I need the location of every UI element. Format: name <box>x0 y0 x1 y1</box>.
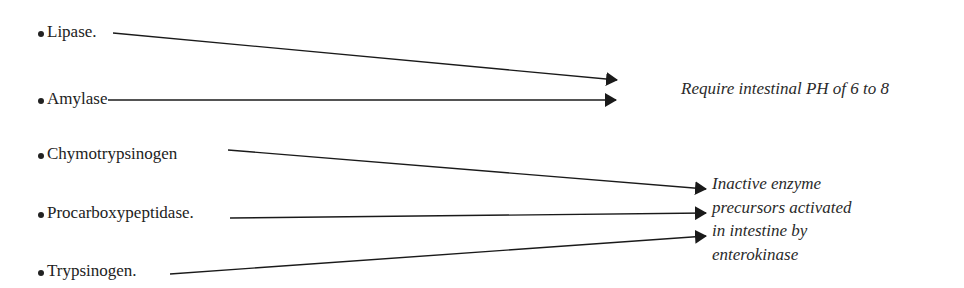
bullet-icon <box>38 31 44 37</box>
arrow-chymotrypsinogen <box>228 150 706 189</box>
target-inactive-precursors: Inactive enzyme precursors activated in … <box>712 172 852 266</box>
enzyme-item-procarboxypeptidase: Procarboxypeptidase. <box>38 203 194 223</box>
arrow-procarboxypeptidase <box>230 213 706 218</box>
enzyme-label: Lipase. <box>47 22 97 42</box>
enzyme-item-lipase: Lipase. <box>38 22 97 42</box>
enzyme-label: Chymotrypsinogen <box>47 144 177 164</box>
enzyme-label: Trypsinogen. <box>47 261 137 281</box>
target-ph-requirement: Require intestinal PH of 6 to 8 <box>681 79 889 99</box>
target-inactive-line-4: enterokinase <box>712 243 852 267</box>
enzyme-label: Amylase <box>47 89 107 109</box>
arrow-lipase <box>113 33 617 80</box>
enzyme-label: Procarboxypeptidase. <box>47 203 194 223</box>
target-inactive-line-1: Inactive enzyme <box>712 172 852 196</box>
target-inactive-line-2: precursors activated <box>712 196 852 220</box>
bullet-icon <box>38 270 44 276</box>
enzyme-item-amylase: Amylase <box>38 89 107 109</box>
enzyme-item-trypsinogen: Trypsinogen. <box>38 261 137 281</box>
target-ph-text: Require intestinal PH of 6 to 8 <box>681 79 889 98</box>
enzyme-item-chymotrypsinogen: Chymotrypsinogen <box>38 144 177 164</box>
bullet-icon <box>38 153 44 159</box>
arrow-trypsinogen <box>170 236 706 274</box>
target-inactive-line-3: in intestine by <box>712 219 852 243</box>
bullet-icon <box>38 212 44 218</box>
bullet-icon <box>38 98 44 104</box>
